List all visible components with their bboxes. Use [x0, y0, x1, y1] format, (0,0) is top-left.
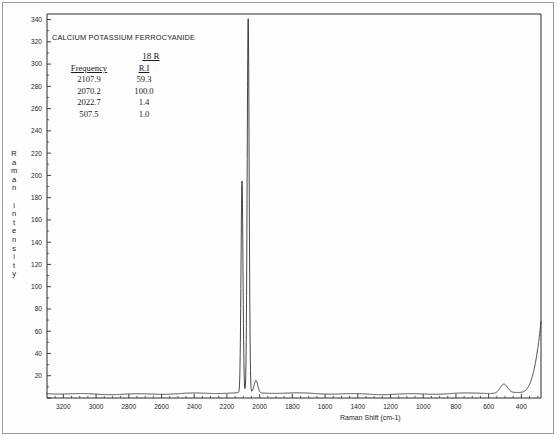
peak-relative-intensity: 1.4: [120, 97, 168, 109]
y-tick-label: 20: [35, 372, 43, 379]
column-header-ri: R.I: [120, 63, 168, 74]
column-header-frequency: Frequency: [58, 63, 120, 74]
x-axis-title: Raman Shift (cm-1): [340, 414, 401, 422]
y-tick-label: 180: [31, 194, 42, 201]
annotation-block: CALCIUM POTASSIUM FERROCYANIDE 18 R Freq…: [52, 33, 232, 120]
x-tick-label: 600: [483, 403, 494, 410]
x-tick-label: 1200: [383, 403, 398, 410]
y-tick-label: 300: [31, 60, 42, 67]
peak-row: 2107.959.3: [58, 74, 168, 86]
y-tick-label: 120: [31, 261, 42, 268]
peak-relative-intensity: 100.0: [120, 86, 168, 98]
x-tick-label: 1400: [350, 403, 365, 410]
y-tick-label: 200: [31, 172, 42, 179]
y-tick-label: 60: [35, 328, 43, 335]
peak-frequency: 2070.2: [58, 86, 120, 98]
y-tick-label: 160: [31, 216, 42, 223]
y-tick-label: 140: [31, 239, 42, 246]
y-tick-label: 220: [31, 150, 42, 157]
peak-relative-intensity: 59.3: [120, 74, 168, 86]
peak-frequency: 2022.7: [58, 97, 120, 109]
peak-row: 507.51.0: [58, 109, 168, 121]
x-axis-ticks: 3200300028002600240022002000180016001400…: [55, 394, 538, 410]
y-tick-label: 260: [31, 105, 42, 112]
spectrum-page: R a m a n i n t e n s i t y 204060801001…: [0, 0, 558, 438]
x-tick-label: 1000: [416, 403, 431, 410]
y-tick-label: 320: [31, 38, 42, 45]
y-tick-label: 100: [31, 283, 42, 290]
x-tick-label: 1600: [318, 403, 333, 410]
x-tick-label: 400: [516, 403, 527, 410]
y-tick-label: 280: [31, 83, 42, 90]
peak-row: 2070.2100.0: [58, 86, 168, 98]
x-tick-label: 800: [450, 403, 461, 410]
x-tick-label: 1800: [285, 403, 300, 410]
peak-frequency: 2107.9: [58, 74, 120, 86]
x-tick-label: 3200: [56, 403, 71, 410]
x-tick-label: 2200: [220, 403, 235, 410]
y-axis-ticks: 2040608010012014016018020022024026028030…: [31, 16, 51, 398]
x-tick-label: 2000: [252, 403, 267, 410]
x-tick-label: 2400: [187, 403, 202, 410]
peak-frequency: 507.5: [58, 109, 120, 121]
y-tick-label: 340: [31, 16, 42, 23]
sample-title: CALCIUM POTASSIUM FERROCYANIDE: [52, 33, 232, 42]
run-id-label: 18 R: [70, 51, 232, 61]
x-tick-label: 3000: [89, 403, 104, 410]
peak-table: Frequency R.I 2107.959.32070.2100.02022.…: [58, 63, 168, 120]
y-tick-label: 80: [35, 305, 43, 312]
peak-table-header-row: Frequency R.I: [58, 63, 168, 74]
y-tick-label: 240: [31, 127, 42, 134]
y-tick-label: 40: [35, 350, 43, 357]
x-tick-label: 2600: [154, 403, 169, 410]
peak-table-body: 2107.959.32070.2100.02022.71.4507.51.0: [58, 74, 168, 120]
peak-row: 2022.71.4: [58, 97, 168, 109]
x-tick-label: 2800: [121, 403, 136, 410]
peak-relative-intensity: 1.0: [120, 109, 168, 121]
